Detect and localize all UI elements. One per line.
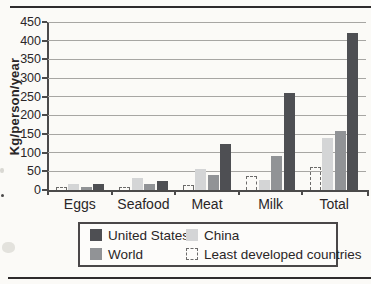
world-swatch-icon	[90, 248, 102, 260]
ytick-label-150: 150	[13, 127, 41, 141]
ytick-label-450: 450	[13, 15, 41, 29]
gridline-200	[48, 115, 366, 116]
legend-item-least-developed-countries: Least developed countries	[186, 247, 362, 262]
bar-china-seafood	[132, 178, 143, 190]
bar-united-states-milk	[284, 93, 295, 190]
gridline-450	[48, 22, 366, 23]
bar-least-developed-countries-meat	[183, 185, 194, 190]
ytick-mark-200	[42, 114, 47, 116]
category-label-milk: Milk	[239, 196, 303, 212]
bar-china-milk	[259, 180, 270, 190]
legend-item-china: China	[186, 228, 362, 243]
ytick-label-300: 300	[13, 71, 41, 85]
ytick-label-250: 250	[13, 90, 41, 104]
xtick-mark-1	[111, 190, 113, 195]
page-rule-top	[10, 6, 371, 8]
ytick-mark-50	[42, 170, 47, 172]
bar-least-developed-countries-eggs	[56, 187, 67, 190]
gridline-300	[48, 78, 366, 79]
ytick-label-0: 0	[13, 183, 41, 197]
x-axis-end-tick	[367, 191, 369, 196]
bar-united-states-meat	[220, 144, 231, 190]
y-axis-line	[47, 22, 49, 192]
bar-china-meat	[195, 169, 206, 190]
gridline-100	[48, 152, 366, 153]
scanned-page: Kg/person/year United States China World…	[0, 0, 371, 284]
bar-united-states-total	[347, 33, 358, 190]
legend-item-united-states: United States	[90, 228, 186, 243]
legend-label: China	[204, 228, 239, 243]
ytick-label-200: 200	[13, 108, 41, 122]
ytick-label-100: 100	[13, 146, 41, 160]
bar-world-eggs	[81, 187, 92, 190]
ytick-mark-450	[42, 21, 47, 23]
xtick-mark-0	[47, 190, 49, 195]
ytick-mark-300	[42, 77, 47, 79]
gridline-150	[48, 134, 366, 135]
bar-world-milk	[271, 156, 282, 190]
legend-label: World	[108, 247, 143, 262]
china-swatch-icon	[186, 229, 198, 241]
legend-label: Least developed countries	[204, 247, 362, 262]
bar-world-meat	[208, 175, 219, 190]
ytick-mark-250	[42, 96, 47, 98]
bar-least-developed-countries-total	[310, 167, 321, 190]
plot-area	[48, 22, 366, 190]
xtick-mark-3	[238, 190, 240, 195]
category-label-eggs: Eggs	[48, 196, 112, 212]
category-label-seafood: Seafood	[112, 196, 176, 212]
united-states-swatch-icon	[90, 229, 102, 241]
xtick-mark-4	[301, 190, 303, 195]
legend: United States China World Least develope…	[78, 222, 338, 267]
scan-artifact-dot	[1, 194, 4, 197]
ytick-label-400: 400	[13, 34, 41, 48]
bar-united-states-seafood	[157, 181, 168, 190]
scan-artifact-smudge	[0, 168, 4, 173]
bar-china-total	[322, 138, 333, 190]
least-developed-countries-swatch-icon	[186, 248, 198, 260]
legend-label: United States	[108, 228, 189, 243]
category-label-meat: Meat	[175, 196, 239, 212]
ytick-mark-350	[42, 58, 47, 60]
page-rule-bottom	[8, 277, 371, 279]
gridline-400	[48, 40, 366, 41]
bar-world-seafood	[144, 184, 155, 190]
ytick-mark-100	[42, 152, 47, 154]
ytick-mark-400	[42, 40, 47, 42]
ytick-label-350: 350	[13, 52, 41, 66]
bar-least-developed-countries-milk	[246, 176, 257, 190]
bar-least-developed-countries-seafood	[119, 187, 130, 190]
legend-item-world: World	[90, 247, 186, 262]
category-label-total: Total	[302, 196, 366, 212]
xtick-mark-2	[174, 190, 176, 195]
bar-world-total	[335, 131, 346, 190]
ytick-label-50: 50	[13, 164, 41, 178]
scan-artifact-smudge	[2, 242, 15, 253]
x-axis-line	[47, 190, 369, 192]
gridline-350	[48, 59, 366, 60]
bar-china-eggs	[68, 184, 79, 190]
gridline-250	[48, 96, 366, 97]
bar-united-states-eggs	[93, 184, 104, 190]
ytick-mark-150	[42, 133, 47, 135]
